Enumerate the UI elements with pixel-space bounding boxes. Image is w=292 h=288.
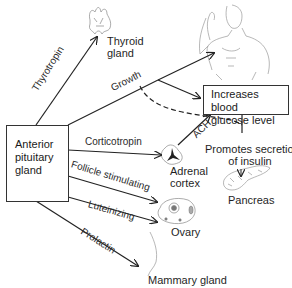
growth-to-body-arrow bbox=[158, 53, 214, 80]
label-line: Adrenal bbox=[170, 165, 208, 177]
pancreas-label: Pancreas bbox=[228, 194, 274, 206]
thyroid-gland-icon bbox=[89, 8, 110, 35]
mammary-gland-icon bbox=[148, 232, 157, 276]
glucose-line-1: Increases blood bbox=[211, 88, 288, 114]
adrenal-cortex-icon bbox=[161, 145, 182, 164]
glucose-effect-box: Increases blood glucose level bbox=[203, 85, 289, 115]
corticotropin-arrow bbox=[68, 150, 161, 155]
glucose-line-2: glucose level bbox=[211, 114, 288, 127]
body-figure-icon bbox=[199, 5, 269, 80]
label-line: of insulin bbox=[205, 155, 292, 167]
mammary-gland-label: Mammary gland bbox=[148, 274, 227, 286]
anterior-pituitary-box: Anterior pituitary gland bbox=[6, 125, 69, 202]
label-line: Thyroid bbox=[107, 35, 144, 47]
label-line: cortex bbox=[170, 177, 208, 189]
anterior-pituitary-label: Anterior pituitary gland bbox=[7, 126, 68, 177]
ovary-label: Ovary bbox=[171, 226, 200, 238]
growth-to-glucose-arrow bbox=[158, 80, 200, 98]
label-line: gland bbox=[15, 164, 68, 177]
adrenal-cortex-label: Adrenal cortex bbox=[170, 165, 208, 189]
label-line: gland bbox=[107, 47, 144, 59]
pituitary-hormone-diagram: Anterior pituitary gland Increases blood… bbox=[0, 0, 292, 288]
label-line: Promotes secretion bbox=[205, 143, 292, 155]
thyroid-gland-label: Thyroid gland bbox=[107, 35, 144, 59]
insulin-effect-label: Promotes secretion of insulin bbox=[205, 143, 292, 167]
label-line: pituitary bbox=[15, 151, 68, 164]
corticotropin-label: Corticotropin bbox=[85, 136, 142, 147]
pancreas-icon bbox=[223, 166, 270, 190]
ovary-icon bbox=[158, 198, 195, 223]
label-line: Anterior bbox=[15, 138, 68, 151]
